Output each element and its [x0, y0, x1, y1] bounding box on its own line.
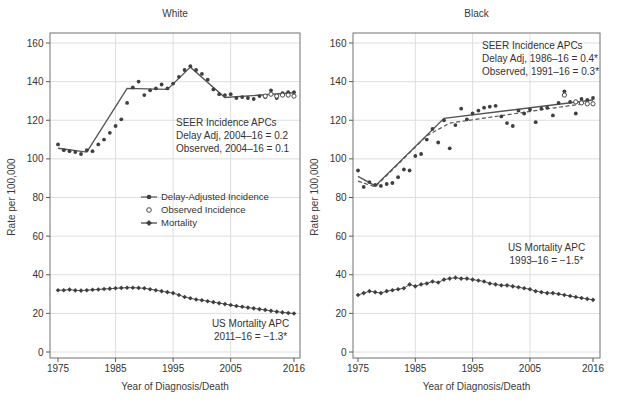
legend-item-observed: Observed Incidence: [141, 203, 269, 216]
black-y-tick-label: 120: [330, 115, 347, 126]
white-y-tick-label: 140: [27, 76, 44, 87]
white-x-tick-label: 1995: [162, 363, 185, 374]
white-x-tick-label: 2016: [283, 363, 306, 374]
black-y-tick-label: 140: [330, 76, 347, 87]
annotation-line: 2011–16 = −1.3*: [193, 330, 308, 343]
black-axis-ticks: 0204060801001201401601975198519952005201…: [330, 38, 605, 374]
black-x-tick-label: 1985: [404, 363, 427, 374]
white-mortality-apc-annotation: US Mortality APC 2011–16 = −1.3*: [193, 317, 308, 343]
x-axis-label-white: Year of Diagnosis/Death: [50, 381, 300, 394]
black-gridlines: [353, 33, 600, 358]
white-y-tick-label: 100: [27, 153, 44, 164]
panel-title-white: White: [50, 8, 300, 21]
black-y-tick-label: 40: [335, 269, 347, 280]
filled-circle-line-icon: [141, 192, 157, 202]
legend-label: Mortality: [161, 217, 197, 228]
open-circle-icon: [141, 205, 157, 215]
white-y-tick-label: 40: [32, 269, 44, 280]
white-x-tick-label: 2005: [220, 363, 243, 374]
annotation-line: SEER Incidence APCs: [482, 39, 599, 52]
x-axis-label-black: Year of Diagnosis/Death: [353, 381, 600, 394]
white-y-tick-label: 60: [32, 231, 44, 242]
black-incidence-apc-annotation: SEER Incidence APCs Delay Adj, 1986–16 =…: [482, 39, 599, 79]
black-y-tick-label: 100: [330, 153, 347, 164]
white-y-tick-label: 80: [32, 192, 44, 203]
white-incidence-apc-annotation: SEER Incidence APCs Delay Adj, 2004–16 =…: [176, 116, 289, 156]
black-x-tick-label: 2016: [582, 363, 605, 374]
legend-label: Observed Incidence: [161, 204, 246, 215]
legend-label: Delay-Adjusted Incidence: [161, 191, 269, 202]
annotation-line: Delay Adj, 2004–16 = 0.2: [176, 129, 289, 142]
white-y-tick-label: 120: [27, 115, 44, 126]
legend-item-delay-adjusted: Delay-Adjusted Incidence: [141, 190, 269, 203]
black-y-tick-label: 60: [335, 231, 347, 242]
white-x-tick-label: 1975: [47, 363, 70, 374]
annotation-line: Delay Adj, 1986–16 = 0.4*: [482, 52, 599, 65]
black-y-tick-label: 80: [335, 192, 347, 203]
black-delay-adjusted-dots: [356, 89, 595, 188]
seer-incidence-mortality-figure: 0204060801001201401601975198519952005201…: [0, 0, 618, 406]
white-y-tick-label: 160: [27, 38, 44, 49]
legend-item-mortality: Mortality: [141, 216, 269, 229]
annotation-line: SEER Incidence APCs: [176, 116, 289, 129]
panel-title-black: Black: [353, 8, 600, 21]
black-panel-graphics: 0204060801001201401601975198519952005201…: [330, 33, 605, 374]
black-x-tick-label: 2005: [519, 363, 542, 374]
white-mortality-markers: [56, 285, 297, 315]
white-x-tick-label: 1985: [104, 363, 127, 374]
white-y-tick-label: 20: [32, 308, 44, 319]
black-x-tick-label: 1975: [347, 363, 370, 374]
white-y-tick-label: 0: [38, 347, 44, 358]
black-y-tick-label: 0: [341, 347, 347, 358]
annotation-line: Observed, 2004–16 = 0.1: [176, 142, 289, 155]
y-axis-label-black: Rate per 100,000: [309, 122, 321, 272]
black-mortality-line: [358, 278, 593, 300]
legend: Delay-Adjusted Incidence Observed Incide…: [141, 190, 269, 229]
y-axis-label-white: Rate per 100,000: [6, 122, 18, 272]
black-delay-adjusted-trend-line: [358, 100, 593, 186]
annotation-line: Observed, 1991–16 = 0.3*: [482, 65, 599, 78]
black-y-tick-label: 160: [330, 38, 347, 49]
diamond-line-icon: [141, 218, 157, 228]
black-x-tick-label: 1995: [462, 363, 485, 374]
annotation-line: 1993–16 = −1.5*: [489, 254, 604, 267]
annotation-line: US Mortality APC: [489, 241, 604, 254]
annotation-line: US Mortality APC: [193, 317, 308, 330]
black-mortality-apc-annotation: US Mortality APC 1993–16 = −1.5*: [489, 241, 604, 267]
black-mortality-markers: [356, 275, 596, 302]
black-y-tick-label: 20: [335, 308, 347, 319]
